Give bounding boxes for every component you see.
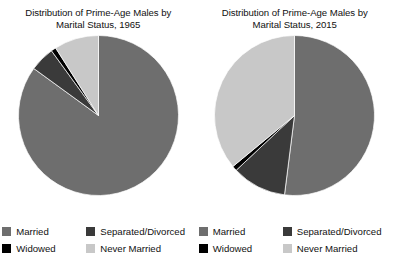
legend-label-never-married: Never Married (100, 243, 161, 254)
pie-chart-2015-svg (214, 35, 375, 196)
legend-swatch-married (2, 227, 11, 236)
legend-item-widowed[interactable]: Widowed (199, 243, 283, 254)
legend-swatch-married (199, 227, 208, 236)
page-title: Distribution of Prime-Age Males by Marit… (205, 7, 385, 32)
panel-2015: Distribution of Prime-Age Males by Marit… (197, 0, 393, 264)
legend-label-separated-divorced: Separated/Divorced (297, 226, 382, 237)
legend-swatch-never-married (86, 244, 95, 253)
pie-chart-1965-svg (18, 35, 179, 196)
page-title: Distribution of Prime-Age Males by Marit… (8, 7, 188, 32)
pie-slice-married[interactable] (285, 35, 375, 195)
pie-chart-2015 (214, 35, 375, 196)
legend-label-widowed: Widowed (213, 243, 252, 254)
legend-item-widowed[interactable]: Widowed (2, 243, 86, 254)
legend-swatch-widowed (199, 244, 208, 253)
figure-two-pie-charts: Distribution of Prime-Age Males by Marit… (0, 0, 393, 264)
legend-item-never-married[interactable]: Never Married (283, 243, 391, 254)
legend-item-married[interactable]: Married (2, 226, 86, 237)
legend-item-never-married[interactable]: Never Married (86, 243, 194, 254)
legend-swatch-never-married (283, 244, 292, 253)
legend-label-widowed: Widowed (16, 243, 55, 254)
legend-item-separated-divorced[interactable]: Separated/Divorced (283, 226, 391, 237)
legend-item-separated-divorced[interactable]: Separated/Divorced (86, 226, 194, 237)
legend-item-married[interactable]: Married (199, 226, 283, 237)
legend-1965: Married Separated/Divorced Widowed Never… (0, 223, 197, 257)
legend-swatch-widowed (2, 244, 11, 253)
legend-label-married: Married (213, 226, 246, 237)
legend-2015: Married Separated/Divorced Widowed Never… (197, 223, 393, 257)
legend-swatch-separated-divorced (86, 227, 95, 236)
legend-label-never-married: Never Married (297, 243, 358, 254)
pie-chart-1965 (18, 35, 179, 196)
pie-slices-2015 (215, 35, 375, 195)
pie-slices-1965 (18, 35, 178, 195)
legend-label-separated-divorced: Separated/Divorced (100, 226, 185, 237)
panel-1965: Distribution of Prime-Age Males by Marit… (0, 0, 197, 264)
legend-label-married: Married (16, 226, 49, 237)
legend-swatch-separated-divorced (283, 227, 292, 236)
